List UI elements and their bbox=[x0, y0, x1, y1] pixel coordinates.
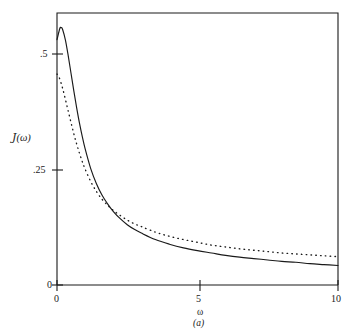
y-axis-label: J(ω) bbox=[12, 132, 31, 144]
data-series-group bbox=[57, 27, 338, 265]
x-tick-label-5: 5 bbox=[196, 294, 201, 304]
plot-canvas bbox=[0, 0, 356, 329]
plot-frame bbox=[57, 13, 338, 285]
figure-container: J(ω) 0 .25 .5 0 5 10 ω (a) bbox=[0, 0, 356, 329]
series-solid-curve bbox=[57, 27, 338, 265]
plot-frame-box bbox=[57, 13, 338, 285]
y-axis-label-arg: (ω) bbox=[16, 132, 30, 143]
y-tick-label-5: .5 bbox=[40, 49, 48, 59]
axis-ticks bbox=[52, 54, 338, 291]
x-axis-label: ω bbox=[197, 308, 203, 318]
x-tick-label-10: 10 bbox=[331, 294, 341, 304]
y-tick-label-25: .25 bbox=[33, 165, 46, 175]
y-tick-label-0: 0 bbox=[47, 280, 52, 290]
panel-caption: (a) bbox=[193, 319, 204, 329]
x-tick-label-0: 0 bbox=[54, 294, 59, 304]
series-dotted-curve bbox=[57, 74, 338, 257]
